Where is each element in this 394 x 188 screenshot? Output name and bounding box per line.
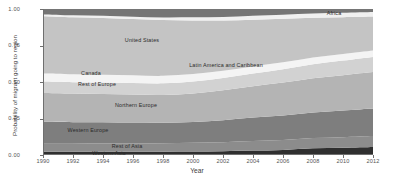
x-tick-mark: [193, 155, 194, 158]
x-tick-mark: [133, 155, 134, 158]
x-tick-label: 2012: [358, 158, 388, 164]
stacked-area-chart: 0.000.250.500.751.00 1990199219941996199…: [0, 0, 394, 188]
x-tick-label: 2008: [298, 158, 328, 164]
x-tick-mark: [373, 155, 374, 158]
x-axis-title: Year: [0, 167, 394, 174]
x-tick-mark: [253, 155, 254, 158]
x-tick-mark: [223, 155, 224, 158]
y-tick-mark: [40, 9, 43, 10]
x-tick-label: 2004: [238, 158, 268, 164]
x-tick-label: 1998: [148, 158, 178, 164]
x-tick-label: 2006: [268, 158, 298, 164]
y-tick-label: 1.00: [0, 6, 20, 12]
x-tick-label: 2000: [178, 158, 208, 164]
x-tick-mark: [313, 155, 314, 158]
x-tick-mark: [103, 155, 104, 158]
x-tick-mark: [43, 155, 44, 158]
y-axis-title: Probability of migrant going to region: [11, 16, 18, 156]
x-tick-mark: [163, 155, 164, 158]
x-tick-mark: [283, 155, 284, 158]
x-tick-label: 1994: [88, 158, 118, 164]
y-tick-mark: [40, 46, 43, 47]
x-tick-label: 1992: [58, 158, 88, 164]
x-tick-mark: [73, 155, 74, 158]
x-tick-label: 1990: [28, 158, 58, 164]
plot-area: [43, 9, 373, 155]
y-tick-mark: [40, 119, 43, 120]
area-series-group: [43, 9, 373, 155]
x-tick-label: 1996: [118, 158, 148, 164]
x-tick-mark: [343, 155, 344, 158]
y-tick-mark: [40, 82, 43, 83]
x-tick-label: 2002: [208, 158, 238, 164]
x-tick-label: 2010: [328, 158, 358, 164]
